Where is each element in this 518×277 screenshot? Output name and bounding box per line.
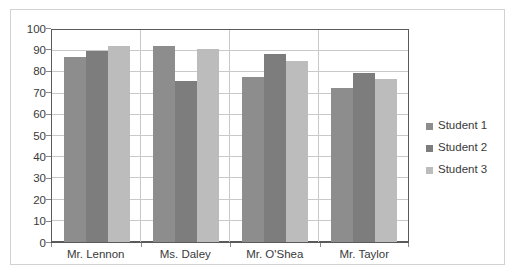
chart-legend: Student 1Student 2Student 3 bbox=[426, 115, 511, 181]
plot-wrapper: 1009080706050403020100 bbox=[51, 29, 409, 243]
y-axis-tick-label-40: 40 bbox=[12, 152, 46, 164]
bar-group-2 bbox=[141, 30, 230, 242]
legend-item-1[interactable]: Student 1 bbox=[426, 115, 511, 137]
legend-item-2[interactable]: Student 2 bbox=[426, 137, 511, 159]
y-axis-tick-label-50: 50 bbox=[12, 130, 46, 142]
x-axis-tick-mark-4 bbox=[408, 243, 409, 247]
x-axis-tick-mark-3 bbox=[320, 243, 321, 247]
y-axis-tick-mark-70 bbox=[46, 92, 51, 93]
y-axis-tick-mark-40 bbox=[46, 156, 51, 157]
legend-item-label: Student 1 bbox=[438, 120, 487, 132]
y-axis-tick-label-0: 0 bbox=[12, 237, 46, 249]
chart-frame: 1009080706050403020100 Mr. LennonMs. Dal… bbox=[10, 9, 505, 265]
y-axis-tick-mark-90 bbox=[46, 49, 51, 50]
y-axis-tick-mark-100 bbox=[46, 28, 51, 29]
y-axis-tick-label-10: 10 bbox=[12, 216, 46, 228]
bar-2-series-1[interactable] bbox=[153, 46, 175, 242]
bar-groups bbox=[52, 30, 408, 242]
x-axis-label-3: Mr. O'Shea bbox=[230, 243, 320, 267]
bar-3-series-1[interactable] bbox=[242, 77, 264, 242]
bar-2-series-2[interactable] bbox=[175, 81, 197, 242]
legend-swatch-icon-3 bbox=[426, 167, 433, 174]
bar-group-3 bbox=[230, 30, 319, 242]
y-axis-tick-label-30: 30 bbox=[12, 173, 46, 185]
legend-item-3[interactable]: Student 3 bbox=[426, 159, 511, 181]
bar-1-series-1[interactable] bbox=[64, 57, 86, 243]
y-axis-tick-label-100: 100 bbox=[12, 23, 46, 35]
y-axis-tick-mark-10 bbox=[46, 221, 51, 222]
bar-4-series-3[interactable] bbox=[375, 79, 397, 242]
x-axis-tick-mark-2 bbox=[230, 243, 231, 247]
y-axis-tick-mark-30 bbox=[46, 178, 51, 179]
x-axis-label-text: Mr. O'Shea bbox=[246, 248, 303, 260]
bar-3-series-2[interactable] bbox=[264, 54, 286, 242]
x-axis-label-text: Mr. Taylor bbox=[339, 248, 389, 260]
y-axis-tick-label-60: 60 bbox=[12, 109, 46, 121]
bar-4-series-2[interactable] bbox=[353, 73, 375, 242]
y-axis-tick-label-90: 90 bbox=[12, 45, 46, 57]
x-axis-label-1: Mr. Lennon bbox=[51, 243, 141, 267]
y-axis-tick-label-20: 20 bbox=[12, 194, 46, 206]
bar-1-series-2[interactable] bbox=[86, 51, 108, 242]
y-axis-tick-mark-50 bbox=[46, 135, 51, 136]
x-axis-tick-mark-1 bbox=[141, 243, 142, 247]
legend-swatch-icon-1 bbox=[426, 123, 433, 130]
bar-group-1 bbox=[52, 30, 141, 242]
legend-item-label: Student 3 bbox=[438, 164, 487, 176]
x-axis-label-text: Mr. Lennon bbox=[67, 248, 125, 260]
legend-swatch-icon-2 bbox=[426, 145, 433, 152]
bar-3-series-3[interactable] bbox=[286, 61, 308, 242]
bar-group-4 bbox=[319, 30, 408, 242]
y-axis-tick-mark-20 bbox=[46, 199, 51, 200]
plot-area bbox=[51, 29, 409, 243]
x-axis-label-4: Mr. Taylor bbox=[320, 243, 410, 267]
x-axis-label-2: Ms. Daley bbox=[141, 243, 231, 267]
x-axis-label-text: Ms. Daley bbox=[160, 248, 211, 260]
y-axis-tick-label-70: 70 bbox=[12, 87, 46, 99]
y-axis-tick-mark-80 bbox=[46, 71, 51, 72]
bar-4-series-1[interactable] bbox=[331, 88, 353, 242]
bar-2-series-3[interactable] bbox=[197, 49, 219, 242]
y-axis-tick-label-80: 80 bbox=[12, 66, 46, 78]
x-axis-tick-mark-0 bbox=[51, 243, 52, 247]
y-axis-tick-mark-60 bbox=[46, 114, 51, 115]
x-axis-labels: Mr. LennonMs. DaleyMr. O'SheaMr. Taylor bbox=[51, 243, 409, 267]
legend-item-label: Student 2 bbox=[438, 142, 487, 154]
bar-1-series-3[interactable] bbox=[108, 46, 130, 242]
